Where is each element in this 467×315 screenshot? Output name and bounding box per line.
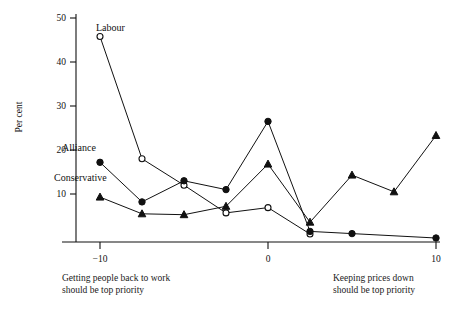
data-point (265, 205, 271, 211)
data-point (139, 199, 145, 205)
series-line (100, 121, 436, 238)
data-point (307, 228, 313, 234)
y-tick-label: 40 (57, 57, 67, 67)
series-label-alliance: Alliance (62, 142, 96, 153)
data-point (432, 131, 440, 138)
data-point (264, 160, 272, 167)
data-point (181, 178, 187, 184)
data-point (138, 210, 146, 217)
series-labour (97, 33, 313, 237)
caption-left: Getting people back to work should be to… (62, 272, 170, 296)
x-tick-label: 10 (431, 254, 441, 264)
data-point (223, 186, 229, 192)
data-point (348, 171, 356, 178)
y-tick-label: 10 (57, 189, 67, 199)
data-point (433, 235, 439, 241)
series-layer (96, 33, 440, 241)
chart-figure: Per cent Labour Alliance Conservative Ge… (0, 0, 467, 315)
x-tick-group: −10010 (93, 242, 441, 264)
data-point (96, 193, 104, 200)
data-point (97, 159, 103, 165)
series-label-labour: Labour (96, 22, 125, 33)
axes: 1020304050 −10010 (57, 13, 442, 264)
data-point (349, 230, 355, 236)
x-tick-label: 0 (266, 254, 271, 264)
data-point (97, 33, 103, 39)
x-tick-label: −10 (93, 254, 108, 264)
series-alliance (97, 118, 439, 241)
data-point (223, 210, 229, 216)
series-label-conservative: Conservative (54, 172, 107, 183)
series-line (100, 37, 310, 235)
y-axis-label: Per cent (14, 82, 24, 152)
y-tick-label: 30 (57, 101, 67, 111)
caption-right: Keeping prices down should be top priori… (333, 272, 415, 296)
plot-area: 1020304050 −10010 (0, 0, 467, 315)
data-point (265, 118, 271, 124)
data-point (139, 156, 145, 162)
y-tick-label: 50 (57, 13, 67, 23)
